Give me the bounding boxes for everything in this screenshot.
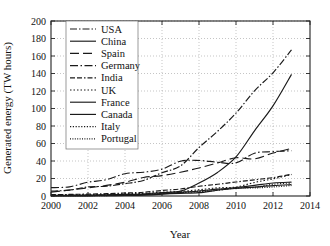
legend-label-spain: Spain xyxy=(101,48,126,59)
x-tick-label: 2008 xyxy=(189,200,209,211)
y-tick-label: 0 xyxy=(41,191,46,202)
legend-label-usa: USA xyxy=(101,24,122,35)
x-tick-label: 2004 xyxy=(115,200,135,211)
legend-label-india: India xyxy=(101,72,123,83)
y-tick-label: 120 xyxy=(31,86,46,97)
y-tick-label: 200 xyxy=(31,16,46,27)
chart-legend: USAChinaSpainGermanyIndiaUKFranceCanadaI… xyxy=(66,21,141,149)
line-chart: 20002002200420062008201020122014 0204060… xyxy=(0,0,330,246)
y-tick-label: 40 xyxy=(36,156,46,167)
x-tick-label: 2000 xyxy=(41,200,61,211)
legend-label-uk: UK xyxy=(101,85,117,96)
y-tick-label: 180 xyxy=(31,33,46,44)
y-axis-label: Generated energy (TW hours) xyxy=(1,42,14,174)
y-tick-label: 80 xyxy=(36,121,46,132)
x-tick-label: 2002 xyxy=(78,200,98,211)
x-axis-label: Year xyxy=(170,228,191,240)
y-tick-label: 100 xyxy=(31,103,46,114)
chart-figure: 20002002200420062008201020122014 0204060… xyxy=(0,0,330,246)
x-tick-label: 2014 xyxy=(300,200,320,211)
x-tick-label: 2012 xyxy=(263,200,283,211)
legend-label-china: China xyxy=(101,36,126,47)
legend-label-france: France xyxy=(101,97,130,108)
y-tick-label: 160 xyxy=(31,51,46,62)
legend-label-germany: Germany xyxy=(101,60,141,71)
legend-label-portugal: Portugal xyxy=(101,133,137,144)
y-tick-label: 60 xyxy=(36,138,46,149)
x-tick-label: 2006 xyxy=(152,200,172,211)
series-line-germany xyxy=(51,151,292,188)
x-tick-label: 2010 xyxy=(226,200,246,211)
y-tick-label: 140 xyxy=(31,68,46,79)
legend-label-italy: Italy xyxy=(101,121,121,132)
y-tick-label: 20 xyxy=(36,173,46,184)
legend-label-canada: Canada xyxy=(101,109,133,120)
